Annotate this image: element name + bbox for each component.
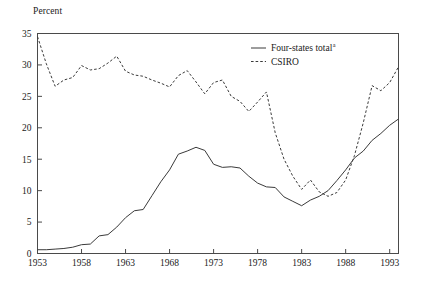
- x-tick-label: 1988: [336, 258, 355, 268]
- x-axis-ticks: 195319581963196819731978198319881993: [28, 249, 399, 268]
- legend-label: CSIRO: [271, 57, 299, 67]
- x-tick-label: 1973: [204, 258, 223, 268]
- data-series-group: [38, 37, 399, 250]
- y-tick-label: 25: [22, 92, 32, 102]
- y-tick-label: 35: [22, 29, 32, 39]
- x-tick-label: 1958: [72, 258, 91, 268]
- x-tick-label: 1968: [160, 258, 179, 268]
- plot-frame: [38, 34, 399, 254]
- chart-plot-area: 05101520253035 1953195819631968197319781…: [0, 0, 422, 284]
- chart-legend: Four-states totalaCSIRO: [251, 41, 336, 66]
- y-tick-label: 5: [27, 217, 32, 227]
- legend-label: Four-states total: [271, 43, 333, 53]
- x-tick-label: 1983: [292, 258, 311, 268]
- y-tick-label: 15: [22, 155, 32, 165]
- plot-border: [38, 34, 399, 254]
- series-line-four-states-total: [38, 119, 399, 250]
- y-tick-label: 30: [22, 60, 32, 70]
- y-tick-label: 10: [22, 186, 32, 196]
- legend-footnote-marker: a: [333, 41, 336, 48]
- series-line-csiro: [38, 37, 399, 197]
- x-tick-label: 1953: [28, 258, 47, 268]
- y-axis-ticks: 05101520253035: [22, 29, 42, 259]
- x-tick-label: 1993: [380, 258, 399, 268]
- x-tick-label: 1963: [116, 258, 135, 268]
- y-tick-label: 20: [22, 123, 32, 133]
- x-tick-label: 1978: [248, 258, 267, 268]
- chart-figure: Percent 05101520253035 19531958196319681…: [0, 0, 422, 284]
